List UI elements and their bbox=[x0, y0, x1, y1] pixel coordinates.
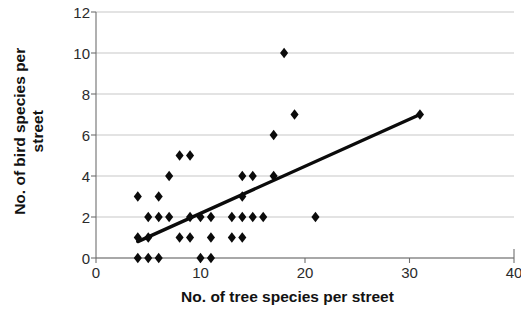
plot-svg bbox=[96, 12, 514, 258]
data-point-marker bbox=[249, 212, 257, 222]
x-tick-label: 40 bbox=[506, 264, 521, 281]
tick-marks bbox=[91, 12, 514, 263]
y-tick-label: 12 bbox=[56, 4, 90, 21]
data-point-marker bbox=[228, 232, 236, 242]
data-point-marker bbox=[207, 253, 215, 263]
data-point-marker bbox=[207, 232, 215, 242]
data-point-marker bbox=[311, 212, 319, 222]
scatter-chart: No. of bird species per street 024681012… bbox=[0, 0, 521, 318]
data-point-marker bbox=[270, 130, 278, 140]
data-point-marker bbox=[144, 212, 152, 222]
data-points bbox=[134, 48, 424, 263]
data-point-marker bbox=[134, 253, 142, 263]
x-tick-label: 10 bbox=[192, 264, 209, 281]
y-axis-title-line2: street bbox=[30, 47, 48, 214]
data-point-marker bbox=[238, 171, 246, 181]
data-point-marker bbox=[249, 171, 257, 181]
data-point-marker bbox=[259, 212, 267, 222]
y-tick-label: 4 bbox=[56, 168, 90, 185]
data-point-marker bbox=[238, 212, 246, 222]
data-point-marker bbox=[134, 191, 142, 201]
data-point-marker bbox=[155, 191, 163, 201]
x-axis-tick-labels: 010203040 bbox=[0, 264, 521, 286]
data-point-marker bbox=[155, 253, 163, 263]
y-axis-title: No. of bird species per street bbox=[0, 0, 60, 262]
y-axis-title-line1: No. of bird species per bbox=[12, 47, 29, 214]
x-axis-title: No. of tree species per street bbox=[60, 288, 515, 306]
data-point-marker bbox=[176, 232, 184, 242]
x-tick-label: 0 bbox=[92, 264, 100, 281]
data-point-marker bbox=[228, 212, 236, 222]
y-tick-label: 2 bbox=[56, 209, 90, 226]
data-point-marker bbox=[238, 232, 246, 242]
y-tick-label: 10 bbox=[56, 45, 90, 62]
data-point-marker bbox=[176, 150, 184, 160]
x-tick-label: 20 bbox=[297, 264, 314, 281]
data-point-marker bbox=[165, 171, 173, 181]
y-axis-tick-labels: 024681012 bbox=[54, 0, 90, 262]
data-point-marker bbox=[290, 109, 298, 119]
data-point-marker bbox=[165, 212, 173, 222]
trendline-path bbox=[138, 115, 420, 242]
y-tick-label: 6 bbox=[56, 127, 90, 144]
trendline bbox=[138, 115, 420, 242]
data-point-marker bbox=[207, 212, 215, 222]
data-point-marker bbox=[416, 109, 424, 119]
data-point-marker bbox=[196, 253, 204, 263]
data-point-marker bbox=[280, 48, 288, 58]
data-point-marker bbox=[155, 212, 163, 222]
plot-area bbox=[96, 12, 514, 258]
data-point-marker bbox=[186, 232, 194, 242]
data-point-marker bbox=[186, 150, 194, 160]
data-point-marker bbox=[144, 253, 152, 263]
y-tick-label: 8 bbox=[56, 86, 90, 103]
x-tick-label: 30 bbox=[401, 264, 418, 281]
